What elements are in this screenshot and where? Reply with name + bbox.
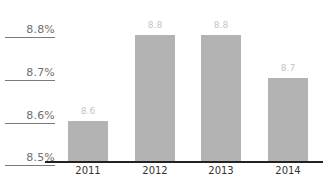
y-tick-label: 8.7% — [26, 66, 55, 79]
y-tick-label: 8.6% — [26, 109, 55, 122]
y-tick-label: 8.8% — [26, 23, 55, 36]
bar-value-label: 8.7 — [268, 63, 308, 73]
x-tick-label: 2013 — [201, 165, 241, 176]
y-tick-8-6: 8.6% — [5, 109, 55, 124]
x-axis-baseline — [45, 161, 323, 163]
bar-2013 — [201, 35, 241, 161]
bar-2014 — [268, 78, 308, 161]
x-tick-label: 2011 — [68, 165, 108, 176]
x-tick-label: 2012 — [135, 165, 175, 176]
y-tick-8-8: 8.8% — [5, 23, 55, 38]
bar-2012 — [135, 35, 175, 161]
bar-value-label: 8.8 — [135, 20, 175, 30]
bar-value-label: 8.6 — [68, 106, 108, 116]
bar-2011 — [68, 121, 108, 161]
bar-value-label: 8.8 — [201, 20, 241, 30]
y-tick-8-7: 8.7% — [5, 66, 55, 81]
y-tick-8-5: 8.5% — [5, 151, 55, 166]
x-tick-label: 2014 — [268, 165, 308, 176]
